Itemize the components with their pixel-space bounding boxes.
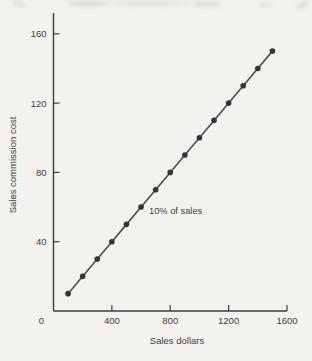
line-annotation: 10% of sales [149, 206, 202, 216]
data-point [94, 256, 100, 262]
data-point [153, 187, 159, 193]
data-point [182, 152, 188, 158]
data-point [211, 118, 217, 124]
y-tick-label: 80 [36, 167, 47, 178]
data-point [65, 291, 71, 297]
data-point [109, 239, 115, 245]
data-point [138, 204, 144, 210]
x-tick-label: 400 [104, 315, 120, 326]
x-tick-label: 800 [162, 315, 178, 326]
y-tick-label: 160 [31, 28, 47, 39]
y-tick-label: 40 [36, 236, 47, 247]
sales-commission-chart: 4080120160040080012001600 Sales commissi… [0, 0, 312, 361]
data-point [80, 274, 86, 280]
chart-plot-area: 4080120160040080012001600 [0, 0, 312, 361]
data-point [226, 100, 232, 106]
data-point [270, 48, 276, 54]
x-tick-label: 0 [39, 315, 44, 326]
x-tick-label: 1600 [276, 315, 297, 326]
data-point [124, 222, 130, 228]
data-point [197, 135, 203, 141]
data-point [255, 66, 261, 72]
x-tick-label: 1200 [218, 315, 239, 326]
y-tick-label: 120 [31, 98, 47, 109]
x-axis-title: Sales dollars [150, 335, 204, 346]
y-axis-title: Sales commission cost [7, 117, 18, 214]
data-point [240, 83, 246, 89]
data-point [167, 170, 173, 176]
